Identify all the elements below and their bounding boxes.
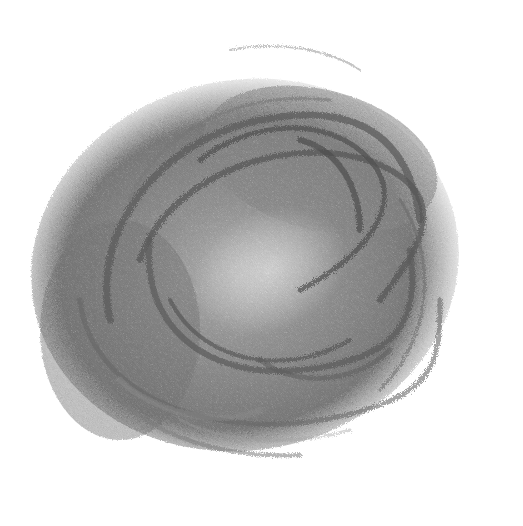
brush-scribble-artwork	[0, 0, 523, 526]
